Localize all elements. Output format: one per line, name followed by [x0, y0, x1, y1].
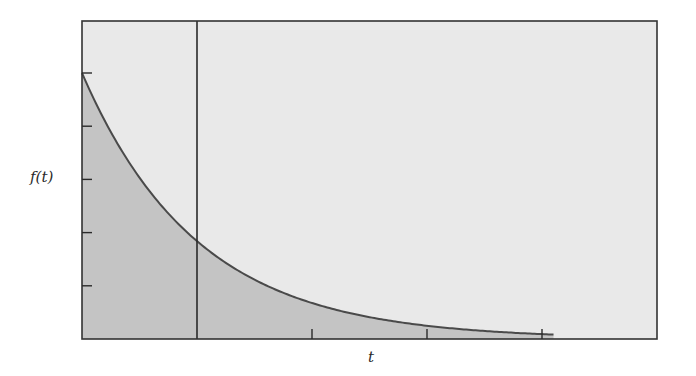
- x-axis-label: t: [368, 348, 374, 366]
- chart: [0, 0, 696, 376]
- y-axis-label: f(t): [30, 168, 53, 186]
